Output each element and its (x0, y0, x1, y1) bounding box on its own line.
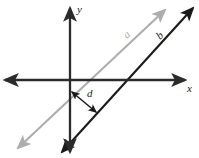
x-axis-label: x (187, 83, 192, 94)
y-axis-label: y (77, 4, 82, 15)
distance-label-d: d (87, 88, 93, 99)
diagram-canvas (0, 0, 199, 158)
geometry-diagram: y x a b d (0, 0, 199, 158)
